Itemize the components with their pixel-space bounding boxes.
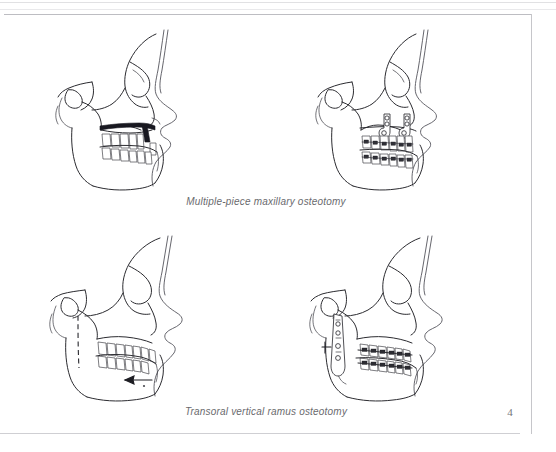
fixation-screw-anterior — [322, 342, 331, 353]
figure-caption-row-1: Multiple-piece maxillary osteotomy — [0, 196, 532, 207]
cephalometric-tracing-preop-ramus — [38, 234, 253, 414]
mandibular-teeth — [98, 356, 149, 374]
figure-caption-row-2: Transoral vertical ramus osteotomy — [0, 406, 532, 417]
figure-panel-multiple-piece-maxillary-osteotomy-postop — [298, 28, 513, 208]
page-number: 4 — [500, 406, 520, 418]
mandibular-setback-arrow — [125, 376, 152, 384]
cephalometric-tracing-postop-ramus — [298, 234, 513, 414]
scanned-page-sheet: Multiple-piece maxillary osteotomy Trans… — [0, 0, 556, 452]
page-border-bottom — [0, 433, 520, 434]
mental-foramen-mark — [143, 385, 145, 387]
vertical-ramus-cut-dashed-line — [78, 316, 79, 368]
figure-panel-transoral-vertical-ramus-osteotomy-postop — [298, 234, 513, 414]
bone-plate-posterior — [379, 114, 390, 138]
ramus-bone-plate — [331, 314, 345, 376]
figure-grid — [0, 16, 532, 432]
scan-edge-line-secondary — [0, 9, 556, 10]
mandibular-teeth-with-appliance — [362, 152, 413, 168]
mandibular-teeth — [102, 148, 152, 164]
figure-panel-multiple-piece-maxillary-osteotomy-preop — [38, 28, 253, 208]
scan-edge-line-top — [0, 2, 556, 3]
mandibular-teeth-with-appliance — [358, 358, 412, 376]
figure-panel-transoral-vertical-ramus-osteotomy-preop — [38, 234, 253, 414]
bone-plate-anterior — [399, 114, 410, 138]
page-border-top — [4, 14, 532, 15]
cephalometric-tracing-preop-maxilla — [38, 28, 253, 208]
cephalometric-tracing-postop-maxilla — [298, 28, 513, 208]
